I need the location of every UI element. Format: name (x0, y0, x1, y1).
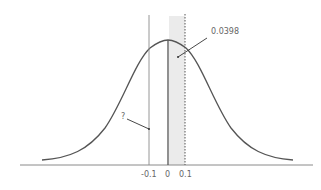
unknown-pointer-dot (148, 128, 150, 130)
normal-curve-figure: 0.0398 ? -0.1 0 0.1 (0, 0, 321, 190)
normal-curve-svg (0, 0, 321, 190)
area-pointer-dot (177, 56, 179, 58)
x-tick-0: 0 (165, 171, 170, 179)
area-value-label: 0.0398 (211, 28, 239, 36)
x-tick-neg-0.1: -0.1 (141, 171, 157, 179)
unknown-pointer-line (127, 119, 149, 129)
unknown-area-label: ? (121, 113, 125, 121)
x-tick-0.1: 0.1 (179, 171, 192, 179)
shaded-region-0-to-0.1 (169, 16, 185, 165)
